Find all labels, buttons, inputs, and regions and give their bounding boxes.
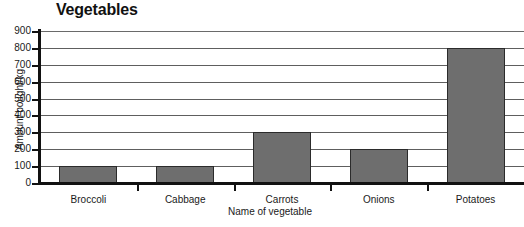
- y-axis-tick-label: 0: [1, 178, 31, 188]
- y-axis-tick-label: 700: [1, 60, 31, 70]
- x-axis-tick: [137, 185, 139, 191]
- y-axis-tick-label: 600: [1, 77, 31, 87]
- y-axis-tick: [32, 132, 39, 134]
- bar-chart-figure: Vegetables Amount bought/kg 010020030040…: [0, 0, 524, 227]
- y-axis-tick-label: 800: [1, 43, 31, 53]
- y-axis-tick-label: 400: [1, 110, 31, 120]
- bar: [447, 48, 505, 183]
- y-axis-tick-label: 100: [1, 161, 31, 171]
- bar: [156, 166, 214, 183]
- x-axis-tick: [427, 185, 429, 191]
- x-axis-tick: [234, 185, 236, 191]
- y-axis-tick-labels: 0100200300400500600700800900: [0, 0, 31, 227]
- y-axis-tick: [32, 99, 39, 101]
- y-axis-tick: [32, 183, 39, 185]
- y-axis-tick: [32, 115, 39, 117]
- x-axis-category-label: Broccoli: [40, 194, 137, 205]
- y-axis-tick: [32, 65, 39, 67]
- x-axis-spine: [38, 182, 524, 185]
- y-axis-tick-label: 200: [1, 144, 31, 154]
- bar: [59, 166, 117, 183]
- y-axis-tick: [32, 48, 39, 50]
- x-axis-title: Name of vegetable: [180, 206, 360, 217]
- plot-area: [40, 31, 524, 183]
- chart-title: Vegetables: [56, 1, 138, 19]
- y-axis-tick: [32, 82, 39, 84]
- y-axis-tick-label: 300: [1, 127, 31, 137]
- x-axis-category-label: Carrots: [234, 194, 331, 205]
- y-axis-tick: [32, 31, 39, 33]
- y-axis-tick-label: 500: [1, 94, 31, 104]
- x-axis-category-label: Onions: [330, 194, 427, 205]
- y-axis-tick: [32, 166, 39, 168]
- bar: [253, 132, 311, 183]
- y-axis-spine: [38, 29, 41, 185]
- x-axis-category-label: Potatoes: [427, 194, 524, 205]
- y-axis-tick-label: 900: [1, 26, 31, 36]
- x-axis-category-label: Cabbage: [137, 194, 234, 205]
- gridline: [40, 31, 524, 32]
- bar: [350, 149, 408, 183]
- y-axis-tick: [32, 149, 39, 151]
- x-axis-tick: [330, 185, 332, 191]
